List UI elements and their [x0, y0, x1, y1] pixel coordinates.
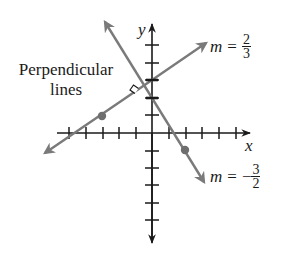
- equals-sign: =: [227, 37, 237, 57]
- y-axis-label: y: [138, 20, 146, 40]
- slope-fraction: 3 2: [251, 163, 260, 190]
- slope-label-positive: m = 2 3: [210, 33, 251, 60]
- fraction-denominator: 3: [243, 47, 250, 60]
- fraction-numerator: 3: [251, 163, 260, 177]
- point-on-positive-line: [98, 112, 106, 120]
- callout-line-1: Perpendicular: [6, 60, 126, 80]
- fraction-numerator: 2: [242, 33, 251, 47]
- fraction-denominator: 2: [252, 177, 259, 190]
- slope-label-negative: m = − 3 2: [210, 163, 260, 190]
- slope-symbol: m: [210, 167, 222, 187]
- perpendicular-callout: Perpendicular lines: [6, 60, 126, 100]
- right-angle-marker: [130, 85, 139, 94]
- callout-line-2: lines: [6, 80, 126, 100]
- slope-fraction: 2 3: [242, 33, 251, 60]
- x-axis-label: x: [245, 136, 253, 156]
- equals-sign: =: [227, 167, 237, 187]
- point-on-negative-line: [181, 146, 189, 154]
- slope-sign: −: [242, 167, 252, 187]
- slope-symbol: m: [210, 37, 222, 57]
